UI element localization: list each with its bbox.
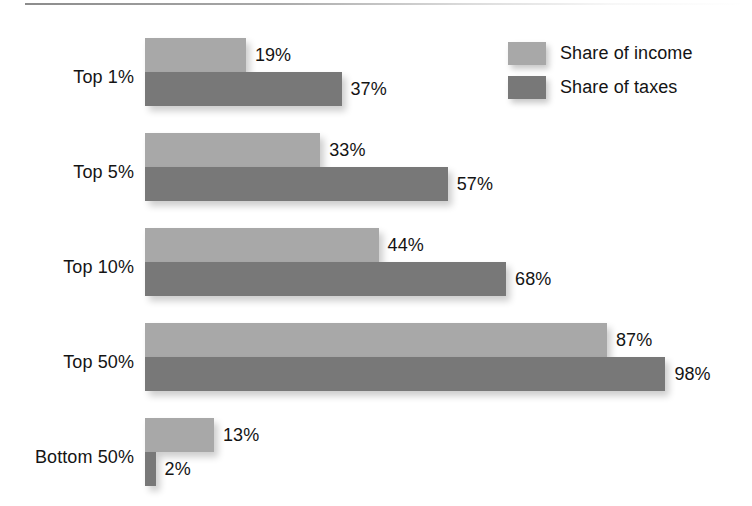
bar-group: Bottom 50% 13% 2% (0, 418, 752, 506)
category-label: Top 5% (0, 162, 134, 183)
bar-taxes (145, 452, 156, 486)
bar-value-taxes: 68% (515, 269, 551, 290)
category-label: Top 10% (0, 257, 134, 278)
bar-row-taxes: 68% (145, 262, 551, 296)
bar-value-income: 33% (329, 140, 365, 161)
category-label: Top 50% (0, 352, 134, 373)
bar-row-income: 13% (145, 418, 259, 452)
bar-income (145, 418, 214, 452)
bar-row-income: 44% (145, 228, 424, 262)
bar-income (145, 323, 607, 357)
bar-income (145, 228, 379, 262)
bar-row-taxes: 98% (145, 357, 711, 391)
plot-area: Top 1% 19% 37% Top 5% 33% 57% To (0, 0, 752, 506)
bar-group: Top 50% 87% 98% (0, 323, 752, 413)
bar-group: Top 10% 44% 68% (0, 228, 752, 318)
bar-value-taxes: 57% (457, 174, 493, 195)
bar-taxes (145, 357, 665, 391)
bar-row-taxes: 37% (145, 72, 387, 106)
category-label: Bottom 50% (0, 447, 134, 468)
bar-value-taxes: 98% (674, 364, 710, 385)
bar-income (145, 38, 246, 72)
bar-value-taxes: 2% (165, 459, 191, 480)
bar-row-income: 87% (145, 323, 652, 357)
bar-row-taxes: 57% (145, 167, 493, 201)
bar-row-income: 19% (145, 38, 291, 72)
bar-group: Top 1% 19% 37% (0, 38, 752, 128)
bar-value-income: 13% (223, 425, 259, 446)
bar-row-taxes: 2% (145, 452, 191, 486)
bar-value-income: 87% (616, 330, 652, 351)
category-label: Top 1% (0, 67, 134, 88)
bar-taxes (145, 167, 448, 201)
bar-taxes (145, 72, 342, 106)
bar-value-income: 44% (388, 235, 424, 256)
bar-value-income: 19% (255, 45, 291, 66)
bar-income (145, 133, 320, 167)
bar-group: Top 5% 33% 57% (0, 133, 752, 223)
bar-chart: Share of income Share of taxes Top 1% 19… (0, 0, 752, 506)
bar-row-income: 33% (145, 133, 366, 167)
bar-value-taxes: 37% (351, 79, 387, 100)
bar-taxes (145, 262, 506, 296)
